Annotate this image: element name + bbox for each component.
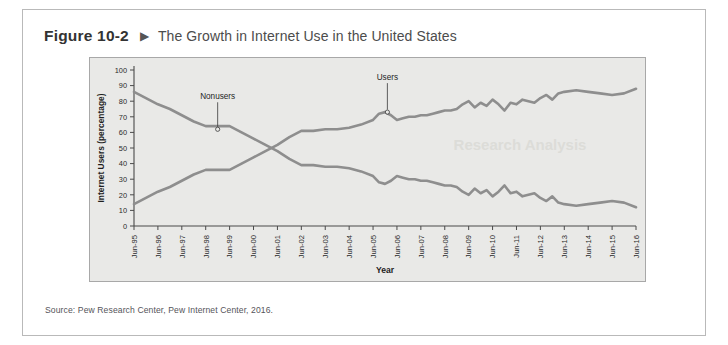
x-axis: Jun-95Jun-96Jun-97Jun-98Jun-99Jun-00Jun-… xyxy=(130,226,641,258)
figure-header: Figure 10-2 ▶ The Growth in Internet Use… xyxy=(44,27,457,45)
annotation-marker xyxy=(216,127,220,131)
x-tick-label: Jun-02 xyxy=(297,235,306,258)
x-tick-label: Jun-10 xyxy=(488,235,497,258)
x-tick-label: Jun-07 xyxy=(417,235,426,258)
y-tick-label: 90 xyxy=(119,81,127,90)
source-note: Source: Pew Research Center, Pew Interne… xyxy=(45,305,273,315)
annotation-label-nonusers: Nonusers xyxy=(200,92,235,101)
x-tick-label: Jun-01 xyxy=(273,235,282,258)
y-tick-label: 30 xyxy=(119,175,127,184)
x-tick-label: Jun-00 xyxy=(249,235,258,258)
x-tick-label: Jun-04 xyxy=(345,235,354,258)
x-tick-label: Jun-13 xyxy=(560,235,569,258)
y-tick-label: 10 xyxy=(119,206,127,215)
figure-card: Figure 10-2 ▶ The Growth in Internet Use… xyxy=(22,9,706,336)
y-tick-label: 20 xyxy=(119,191,127,200)
background-watermark: Research Analysis xyxy=(454,136,587,153)
figure-number: Figure 10-2 xyxy=(44,27,129,45)
x-tick-label: Jun-96 xyxy=(154,235,163,258)
y-tick-label: 70 xyxy=(119,113,127,122)
watermark-text: Research Analysis xyxy=(454,136,587,153)
x-tick-label: Jun-12 xyxy=(536,235,545,258)
triangle-right-icon: ▶ xyxy=(140,30,149,42)
figure-title: The Growth in Internet Use in the United… xyxy=(158,28,457,44)
chart-plot-panel: Research Analysis 0102030405060708090100… xyxy=(89,57,646,282)
y-tick-label: 0 xyxy=(123,222,127,231)
x-tick-label: Jun-16 xyxy=(632,235,641,258)
x-tick-label: Jun-08 xyxy=(441,235,450,258)
x-tick-label: Jun-06 xyxy=(393,235,402,258)
x-tick-label: Jun-03 xyxy=(321,235,330,258)
annotation-marker xyxy=(385,110,389,114)
x-tick-label: Jun-05 xyxy=(369,235,378,258)
x-tick-label: Jun-15 xyxy=(608,235,617,258)
line-chart: Research Analysis 0102030405060708090100… xyxy=(90,58,645,281)
y-tick-label: 100 xyxy=(115,66,127,75)
x-tick-label: Jun-11 xyxy=(512,235,521,258)
y-axis: 0102030405060708090100 xyxy=(115,66,134,231)
y-tick-label: 60 xyxy=(119,128,127,137)
x-tick-label: Jun-95 xyxy=(130,235,139,258)
x-tick-label: Jun-99 xyxy=(225,235,234,258)
x-tick-label: Jun-14 xyxy=(584,235,593,258)
y-tick-label: 40 xyxy=(119,159,127,168)
x-tick-label: Jun-97 xyxy=(178,235,187,258)
x-tick-label: Jun-09 xyxy=(464,235,473,258)
y-axis-title: Internet Users (percentage) xyxy=(96,93,106,202)
y-tick-label: 80 xyxy=(119,97,127,106)
y-tick-label: 50 xyxy=(119,144,127,153)
x-tick-label: Jun-98 xyxy=(202,235,211,258)
x-axis-title: Year xyxy=(376,265,395,275)
annotation-label-users: Users xyxy=(377,73,398,82)
